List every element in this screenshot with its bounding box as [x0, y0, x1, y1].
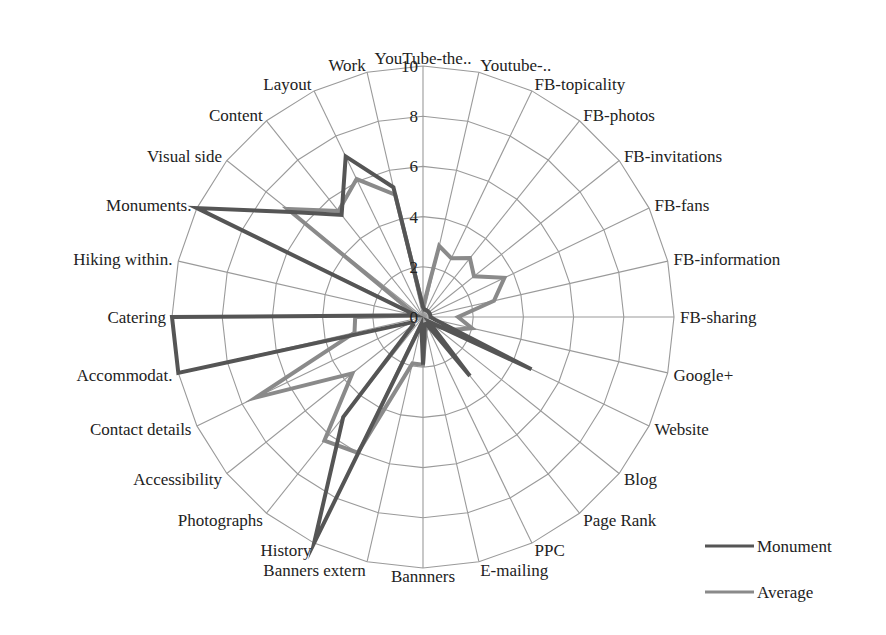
category-label: Catering [107, 308, 166, 327]
category-label: Monuments. [106, 196, 191, 215]
legend-label-monument: Monument [757, 537, 832, 556]
category-label: Accommodat. [77, 366, 173, 385]
category-label: FB-sharing [680, 308, 757, 327]
category-label: Accessibility [133, 470, 222, 489]
tick-label-0: 0 [410, 308, 419, 327]
category-label: Layout [263, 75, 311, 94]
category-label: PPC [535, 541, 565, 560]
category-label: History [261, 541, 313, 560]
tick-label-4: 4 [410, 208, 419, 227]
category-label: Google+ [674, 366, 734, 385]
category-label: Content [209, 106, 263, 125]
category-label: FB-topicality [535, 75, 626, 94]
category-label: Youtube-.. [480, 56, 551, 75]
category-label: FB-photos [583, 106, 655, 125]
category-label: YouTube-the.. [375, 49, 472, 68]
category-label: Website [655, 420, 709, 439]
grid-spoke [367, 317, 423, 562]
legend-item-monument: Monument [705, 537, 832, 556]
grid-spoke [423, 317, 619, 474]
category-label: FB-invitations [624, 147, 722, 166]
category-label: FB-fans [655, 196, 710, 215]
legend: Monument Average [705, 537, 832, 602]
grid-spoke [423, 261, 668, 317]
legend-item-average: Average [705, 583, 813, 602]
category-label: Contact details [90, 420, 192, 439]
category-label: Bannners [391, 567, 455, 586]
legend-label-average: Average [757, 583, 813, 602]
radar-plot: 0246810 YouTube-the..Youtube-..FB-topica… [0, 0, 886, 635]
tick-label-6: 6 [410, 157, 419, 176]
category-label: Banners extern [263, 561, 366, 580]
category-label: Blog [624, 470, 658, 489]
tick-label-8: 8 [410, 107, 419, 126]
category-label: Hiking within. [73, 250, 172, 269]
category-label: Photographs [178, 511, 263, 530]
category-label: FB-information [674, 250, 781, 269]
category-label: E-mailing [480, 561, 548, 580]
category-label: Work [328, 56, 366, 75]
tick-label-2: 2 [410, 258, 419, 277]
radar-chart: 0246810 YouTube-the..Youtube-..FB-topica… [0, 0, 886, 635]
grid-spoke [423, 161, 619, 318]
category-label: Page Rank [583, 511, 657, 530]
category-label: Visual side [147, 147, 222, 166]
